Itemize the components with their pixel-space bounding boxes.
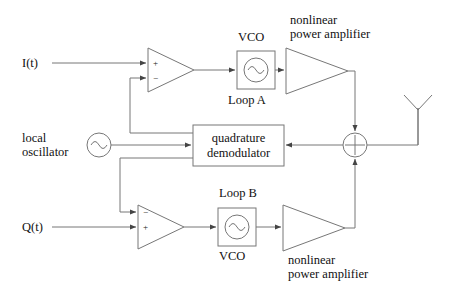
wire-feedback-bottom <box>120 158 193 212</box>
label-loop-b: Loop B <box>219 186 257 200</box>
label-amp-bottom-line1: nonlinear <box>288 253 335 267</box>
figure-canvas: I(t) Q(t) local oscillator VCO Loop A Lo… <box>0 0 461 288</box>
label-local-oscillator-line1: local <box>22 131 46 145</box>
wire-amp-bottom-to-summer <box>345 159 355 228</box>
amplifier-bottom-body <box>283 205 345 251</box>
vco-bottom-sine <box>229 224 245 231</box>
amplifier-top-body <box>286 48 348 94</box>
label-vco-bottom: VCO <box>219 249 245 263</box>
antenna-arm-right <box>418 95 432 110</box>
sign-opamp-top-minus: − <box>153 74 158 83</box>
sign-opamp-bottom-plus: + <box>143 223 148 232</box>
wire-amp-top-to-summer <box>348 71 355 131</box>
label-amp-top-line1: nonlinear <box>290 13 337 27</box>
wire-summer-to-antenna <box>367 108 418 145</box>
sign-opamp-bottom-minus: − <box>143 208 148 217</box>
label-input-q: Q(t) <box>22 220 43 234</box>
label-input-i: I(t) <box>22 56 38 70</box>
label-local-oscillator-line2: oscillator <box>22 145 69 159</box>
label-vco-top: VCO <box>238 30 264 44</box>
label-demodulator-line2: demodulator <box>193 146 284 160</box>
label-amp-top-line2: power amplifier <box>290 27 370 41</box>
label-loop-a: Loop A <box>228 93 266 107</box>
antenna-arm-left <box>404 95 418 110</box>
label-demodulator-line1: quadrature <box>193 131 284 145</box>
wire-feedback-top <box>130 78 193 133</box>
vco-top-sine <box>248 67 264 74</box>
local-oscillator-sine <box>91 142 107 149</box>
sign-opamp-top-plus: + <box>153 59 158 68</box>
label-amp-bottom-line2: power amplifier <box>288 267 368 281</box>
opamp-top-body <box>148 48 194 92</box>
